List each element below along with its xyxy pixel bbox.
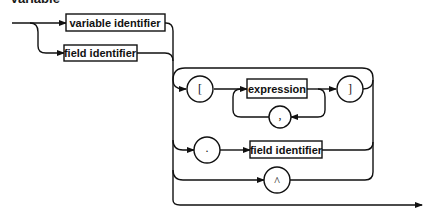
svg-text:,: , <box>279 108 282 122</box>
nonterminal-field-identifier-2: field identifier <box>250 141 323 158</box>
main-exit-line <box>165 23 422 205</box>
to-open-bracket <box>173 80 186 89</box>
terminal-open-bracket: [ <box>187 76 213 102</box>
svg-text:field identifier: field identifier <box>64 47 137 59</box>
terminal-period: . <box>194 137 220 163</box>
svg-text:[: [ <box>198 82 202 96</box>
nonterminal-field-identifier: field identifier <box>64 45 137 61</box>
nonterminal-expression: expression <box>247 79 307 98</box>
svg-text:expression: expression <box>248 83 306 95</box>
branch-field-identifier <box>30 23 64 53</box>
svg-text:]: ] <box>348 82 352 96</box>
nonterminal-variable-identifier: variable identifier <box>66 14 165 31</box>
svg-text:variable identifier: variable identifier <box>69 17 161 29</box>
terminal-comma: , <box>269 106 291 128</box>
terminal-caret: ^ <box>264 167 290 193</box>
svg-text:^: ^ <box>274 174 280 188</box>
field-identifier-exit <box>137 53 173 61</box>
svg-text:field identifier: field identifier <box>250 144 323 156</box>
terminal-close-bracket: ] <box>337 76 363 102</box>
syntax-diagram: variable identifier field identifier exp… <box>0 0 434 215</box>
svg-text:.: . <box>206 141 209 155</box>
